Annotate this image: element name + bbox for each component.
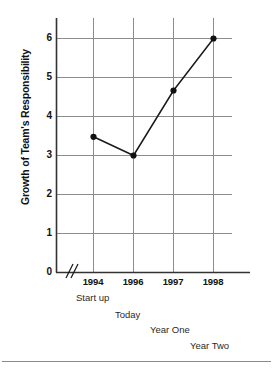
- data-point-1994: [90, 134, 96, 140]
- data-point-1998: [210, 35, 216, 41]
- y-tick-label-4: 4: [38, 111, 52, 121]
- x-stagger-label-year-one: Year One: [150, 324, 190, 335]
- y-tick-label-5: 5: [38, 72, 52, 82]
- data-point-1996: [130, 152, 136, 158]
- axis-break-icon: [66, 264, 78, 278]
- x-tick-label-1996: 1996: [113, 277, 153, 287]
- data-point-1997: [170, 87, 176, 93]
- x-tick-label-1997: 1997: [153, 277, 193, 287]
- y-tick-label-3: 3: [38, 150, 52, 160]
- bottom-divider: [2, 361, 271, 362]
- y-tick-label-6: 6: [38, 33, 52, 43]
- data-line: [94, 39, 214, 156]
- y-tick-label-2: 2: [38, 189, 52, 199]
- x-tick-label-1994: 1994: [73, 277, 113, 287]
- y-tick-label-1: 1: [38, 228, 52, 238]
- x-tick-label-1998: 1998: [193, 277, 233, 287]
- x-stagger-label-today: Today: [115, 309, 140, 320]
- x-stagger-label-year-two: Year Two: [190, 340, 229, 351]
- chart-figure: Growth of Team's Responsibility: [0, 0, 273, 372]
- data-point-markers: [90, 35, 216, 158]
- x-stagger-label-start-up: Start up: [76, 292, 109, 303]
- y-tick-label-0: 0: [38, 267, 52, 277]
- horizontal-gridlines: [56, 39, 232, 234]
